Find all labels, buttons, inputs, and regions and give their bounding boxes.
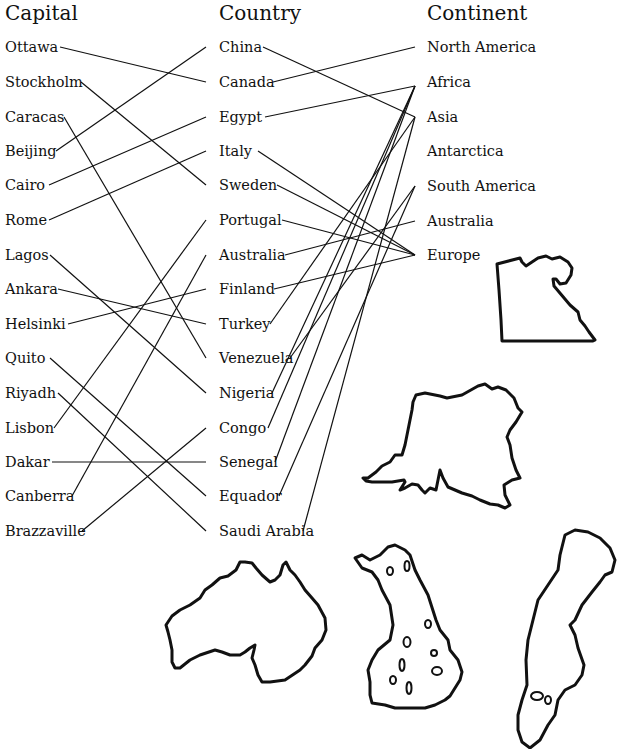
lake-icon — [405, 561, 410, 571]
lake-icon — [400, 659, 405, 671]
map-outlines — [0, 0, 625, 749]
lake-icon — [432, 667, 442, 675]
lake-icon — [531, 692, 543, 700]
lake-icon — [404, 637, 411, 647]
congo-outline-icon — [363, 384, 522, 508]
lake-icon — [431, 650, 437, 656]
australia-outline-icon — [166, 562, 326, 682]
egypt-outline-icon — [497, 256, 595, 341]
lake-icon — [407, 682, 412, 694]
lake-icon — [390, 676, 396, 684]
sweden-outline-icon — [518, 530, 615, 748]
lake-icon — [425, 620, 431, 628]
lake-icon — [545, 696, 551, 704]
lake-icon — [387, 567, 393, 575]
